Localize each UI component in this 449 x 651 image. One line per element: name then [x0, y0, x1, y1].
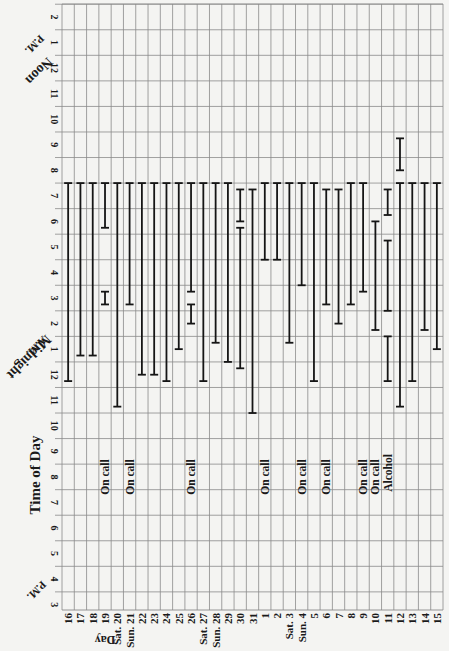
sleep-segment [310, 183, 318, 381]
y-tick-label: 5 [49, 551, 60, 556]
sleep-segment [126, 183, 134, 304]
y-tick-label: 4 [49, 270, 60, 275]
sleep-segment [113, 183, 121, 407]
day-label: 2 [271, 613, 283, 619]
y-tick-label: 7 [49, 193, 60, 198]
sleep-segment [371, 221, 379, 330]
day-label: 17 [74, 613, 86, 625]
sleep-segment [322, 189, 330, 304]
sleep-segment [396, 183, 404, 407]
sleep-segment [347, 183, 355, 304]
sleep-segment [138, 183, 146, 375]
day-label: 1 [259, 613, 271, 619]
day-label: Sun. 28 [210, 613, 222, 648]
y-axis-title: Time of Day [27, 435, 43, 514]
sleep-segment [236, 228, 244, 369]
y-tick-label: 8 [49, 168, 60, 173]
sleep-segment [150, 183, 158, 375]
y-tick-label: 1 [49, 40, 60, 45]
sleep-segment [261, 183, 269, 260]
day-label: 14 [419, 613, 431, 625]
day-label: 11 [382, 613, 394, 623]
day-label: 24 [160, 613, 172, 625]
x-axis-title: Day [95, 633, 116, 647]
day-label: 25 [173, 613, 185, 625]
sleep-segment [212, 183, 220, 343]
day-label: 10 [369, 613, 381, 625]
day-label: Sun. 4 [296, 613, 308, 643]
sleep-segment [162, 183, 170, 381]
day-label: 23 [148, 613, 160, 625]
day-label: 7 [333, 613, 345, 619]
sleep-segment [224, 183, 232, 362]
y-tick-label: 12 [49, 370, 60, 380]
day-label: 26 [185, 613, 197, 625]
day-note: On call [320, 459, 332, 494]
y-tick-label: 3 [49, 602, 60, 607]
pm-label-top: P.M. [23, 33, 47, 57]
y-tick-label: 10 [49, 114, 60, 124]
sleep-segment [384, 189, 392, 215]
sleep-segment [433, 183, 441, 349]
day-label: 6 [320, 613, 332, 619]
day-note: On call [259, 459, 271, 494]
y-tick-label: 10 [49, 421, 60, 431]
sleep-segment [236, 189, 244, 221]
sleep-segment [384, 241, 392, 311]
y-tick-label: 7 [49, 500, 60, 505]
day-label: Sun. 21 [124, 613, 136, 648]
day-label: Sat. 27 [197, 613, 209, 645]
day-label: 19 [99, 613, 111, 625]
sleep-chart: 211211109876543211211109876543 On callOn… [0, 0, 449, 651]
sleep-segment [396, 138, 404, 170]
chart-grid [55, 4, 443, 610]
day-label: 22 [136, 613, 148, 625]
sleep-segment [175, 183, 183, 349]
day-label: 5 [308, 613, 320, 619]
sleep-segment [421, 183, 429, 330]
day-label: 9 [357, 613, 369, 619]
day-label: 15 [431, 613, 443, 625]
sleep-segment [199, 183, 207, 381]
day-label: 30 [234, 613, 246, 625]
pm-label-bottom: P.M. [25, 579, 49, 603]
sleep-segment [273, 183, 281, 260]
y-tick-label: 11 [49, 89, 60, 98]
sleep-segment [187, 183, 195, 292]
day-note: On call [185, 459, 197, 494]
sleep-segment [384, 336, 392, 381]
day-label: 29 [222, 613, 234, 625]
sleep-segment [101, 183, 109, 228]
sleep-segment [249, 189, 257, 413]
sleep-segment [359, 183, 367, 292]
y-tick-label: 2 [49, 15, 60, 20]
sleep-segment [285, 183, 293, 343]
day-label: 31 [247, 613, 259, 624]
day-label: 18 [87, 613, 99, 625]
sleep-segment [408, 183, 416, 381]
y-tick-label: 11 [49, 396, 60, 405]
day-note: On call [124, 459, 136, 494]
day-label: 16 [62, 613, 74, 625]
day-note: On call [99, 459, 111, 494]
y-tick-label: 4 [49, 577, 60, 582]
day-label: 12 [394, 613, 406, 625]
sleep-segment [64, 183, 72, 381]
day-note: On call [296, 459, 308, 494]
sleep-segment [101, 292, 109, 305]
y-tick-label: 6 [49, 526, 60, 531]
y-tick-label: 2 [49, 321, 60, 326]
y-tick-label: 5 [49, 244, 60, 249]
day-note: On call [357, 459, 369, 494]
y-tick-label: 9 [49, 449, 60, 454]
y-tick-label: 3 [49, 296, 60, 301]
day-label: 8 [345, 613, 357, 619]
noon-label: Noon [22, 55, 55, 88]
sleep-bars [64, 138, 441, 413]
y-tick-label: 9 [49, 142, 60, 147]
sleep-segment [187, 304, 195, 323]
x-axis-day-labels: 16171819Sat. 20Sun. 212223242526Sat. 27S… [62, 613, 443, 648]
day-note: Alcohol [382, 454, 394, 492]
y-tick-label: 6 [49, 219, 60, 224]
y-tick-label: 8 [49, 474, 60, 479]
